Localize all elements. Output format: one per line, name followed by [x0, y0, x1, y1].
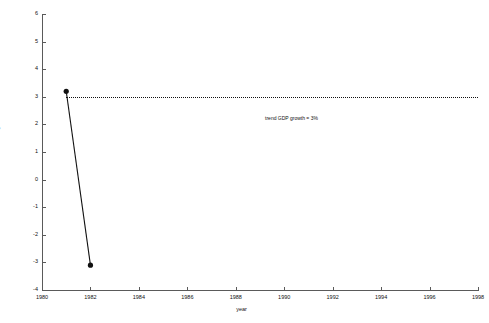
- data-point-marker: [64, 89, 69, 94]
- data-point-marker: [88, 263, 93, 268]
